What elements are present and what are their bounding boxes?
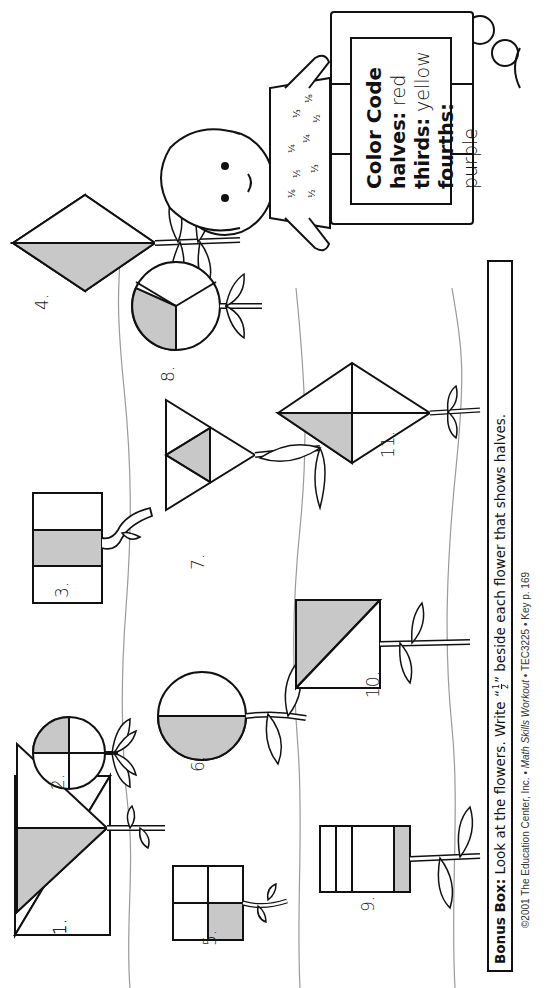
- bonus-box: Bonus Box: Look at the flowers. Write “1…: [487, 260, 513, 972]
- flower-number-5: 5.: [200, 930, 220, 946]
- flower-number-2: 2.: [48, 774, 68, 790]
- color-code-label: fourths:: [435, 103, 457, 189]
- flower-number-1-label: 1.: [50, 919, 70, 935]
- footer-copyright: ©2001 The Education Center, Inc. •: [520, 768, 531, 928]
- bonus-box-text: Look at the flowers. Write “: [492, 690, 508, 879]
- color-code-box: Color Code halves: red thirds: yellow fo…: [350, 37, 452, 205]
- fraction-denominator: 2: [502, 684, 510, 689]
- flower-number-8: 8.: [158, 366, 178, 382]
- svg-text:½: ½: [307, 189, 317, 198]
- girl-illustration: [161, 56, 330, 251]
- flower-number-7: 7.: [188, 554, 208, 570]
- bonus-box-label: Bonus Box:: [492, 879, 508, 964]
- flower-5: [173, 866, 287, 940]
- flower-number-9: 9.: [358, 896, 378, 912]
- color-code-title: Color Code: [362, 47, 386, 189]
- ground-line-row1: [119, 228, 131, 988]
- worksheet-page: 1.: [0, 0, 546, 988]
- flower-10: [296, 600, 470, 688]
- footer-book-title: Math Skills Workout: [520, 680, 531, 768]
- color-code-label: thirds:: [411, 118, 433, 189]
- svg-text:⅛: ⅛: [304, 94, 314, 103]
- flower-number-6: 6.: [188, 756, 208, 772]
- svg-text:½: ½: [312, 114, 322, 123]
- flower-number-10: 10.: [363, 671, 383, 698]
- bonus-box-text-end: ” beside each flower that shows halves.: [492, 414, 508, 683]
- svg-text:⅕: ⅕: [292, 169, 302, 178]
- svg-text:⅓: ⅓: [310, 164, 320, 173]
- color-code-value: red: [387, 75, 409, 106]
- color-code-row-thirds: thirds: yellow: [410, 47, 434, 189]
- copyright-footer: ©2001 The Education Center, Inc. • Math …: [520, 408, 531, 928]
- flower-6: [158, 664, 306, 764]
- one-half-fraction: 12: [493, 684, 510, 689]
- flower-number-4: 4.: [32, 294, 52, 310]
- color-code-value: yellow: [411, 51, 433, 112]
- color-code-label: halves:: [387, 112, 409, 189]
- flower-number-11: 11.: [378, 431, 398, 458]
- flower-9: [320, 807, 480, 908]
- flower-8: [132, 262, 262, 350]
- svg-text:⅓: ⅓: [292, 109, 302, 118]
- svg-text:¼: ¼: [302, 134, 312, 143]
- flower-number-3: 3.: [52, 582, 72, 598]
- footer-rest: • TEC3225 • Key p. 169: [520, 572, 531, 680]
- svg-text:⅙: ⅙: [287, 189, 297, 198]
- svg-text:¼: ¼: [287, 144, 297, 153]
- color-code-row-fourths: fourths: purple: [434, 47, 482, 189]
- color-code-row-halves: halves: red: [386, 47, 410, 189]
- color-code-value: purple: [459, 128, 481, 189]
- flower-3: [33, 493, 152, 603]
